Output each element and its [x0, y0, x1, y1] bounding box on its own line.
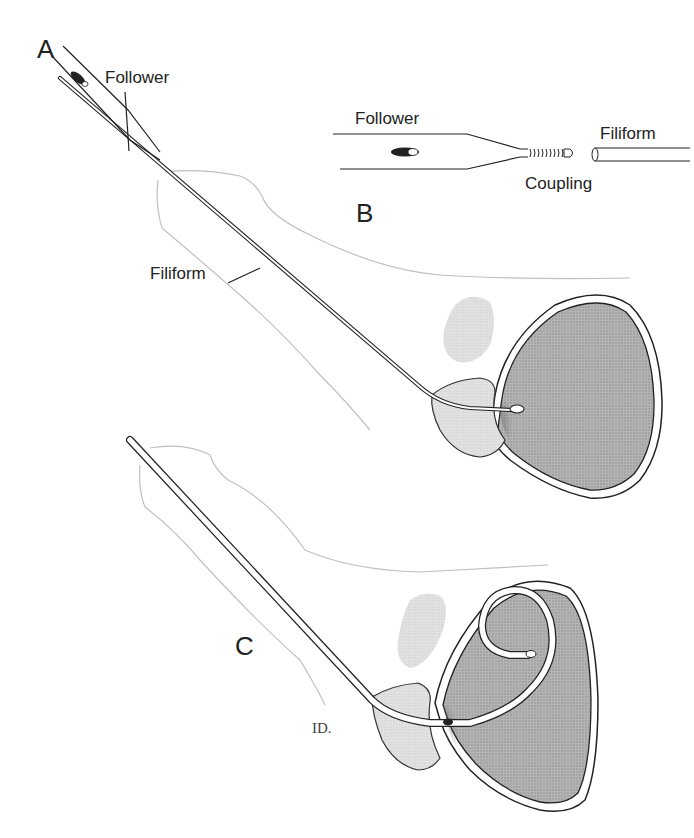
urethral-catheter-illustration: ID.	[0, 0, 694, 838]
label-a-filiform: Filiform	[150, 265, 206, 282]
panel-label-b: B	[356, 200, 373, 226]
label-b-coupling: Coupling	[525, 175, 592, 192]
panel-label-c: C	[235, 633, 254, 659]
illustration-canvas: ID. A Follower Filiform Follower Filifor…	[0, 0, 694, 838]
label-b-follower: Follower	[355, 110, 419, 127]
artist-signature: ID.	[312, 720, 332, 736]
label-b-filiform: Filiform	[600, 125, 656, 142]
panel-c-drawing: ID.	[130, 440, 598, 811]
panel-label-a: A	[37, 36, 54, 62]
label-a-follower: Follower	[105, 69, 169, 86]
